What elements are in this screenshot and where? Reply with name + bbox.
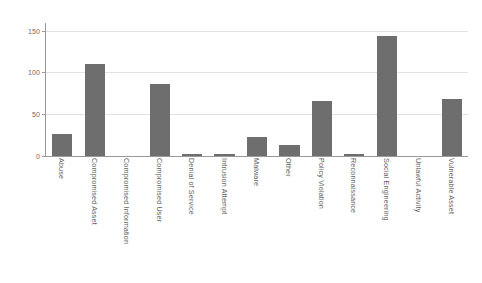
bar-compromised-asset[interactable] <box>85 64 105 157</box>
x-tick-label-other: Other <box>284 158 292 177</box>
x-tick-label-compromised-user: Compromised User <box>155 158 163 222</box>
x-tick-label-unlawful-activity: Unlawful Activity <box>414 158 422 212</box>
x-tick-label-abuse: Abuse <box>57 158 65 179</box>
bar-vulnerable-asset[interactable] <box>442 99 462 156</box>
bar-intrusion-attempt[interactable] <box>214 154 234 156</box>
bars-layer <box>46 24 468 156</box>
y-tick-label-50: 50 <box>10 111 40 118</box>
bar-policy-violation[interactable] <box>312 101 332 156</box>
y-tick-label-0: 0 <box>10 153 40 160</box>
bar-denial-of-service[interactable] <box>182 154 202 157</box>
x-tick-label-compromised-asset: Compromised Asset <box>90 158 98 225</box>
bar-other[interactable] <box>279 145 299 156</box>
bar-social-engineering[interactable] <box>377 36 397 156</box>
y-tick-label-100: 100 <box>10 69 40 76</box>
x-tick-label-compromised-information: Compromised Information <box>122 158 130 244</box>
bar-reconnaissance[interactable] <box>344 154 364 156</box>
bar-chart: 150 100 50 0 AbuseCompromised AssetCompr… <box>0 0 482 283</box>
x-tick-label-reconnaissance: Reconnaissance <box>349 158 357 213</box>
x-tick-label-intrusion-attempt: Intrusion Attempt <box>220 158 228 214</box>
x-tick-label-malware: Malware <box>252 158 260 186</box>
x-tick-label-social-engineering: Social Engineering <box>382 158 390 221</box>
x-tick-label-policy-violation: Policy Violation <box>317 158 325 209</box>
x-axis-label-group: AbuseCompromised AssetCompromised Inform… <box>46 158 468 282</box>
bar-abuse[interactable] <box>52 134 72 157</box>
x-axis-line <box>45 156 468 157</box>
x-tick-label-denial-of-service: Denial of Service <box>187 158 195 215</box>
bar-malware[interactable] <box>247 137 267 156</box>
x-tick-label-vulnerable-asset: Vulnerable Asset <box>447 158 455 214</box>
y-tick-label-150: 150 <box>10 28 40 35</box>
y-axis-label-group: 150 100 50 0 <box>4 0 40 283</box>
bar-compromised-user[interactable] <box>150 84 170 156</box>
